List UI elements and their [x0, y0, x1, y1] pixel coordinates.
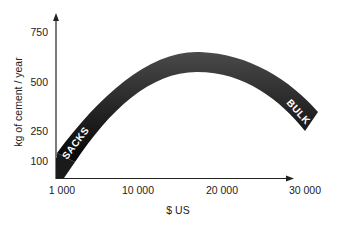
x-tick-1000: 1 000: [49, 184, 75, 196]
y-tick-750: 750: [30, 26, 48, 38]
y-tick-500: 500: [30, 76, 48, 88]
x-tick-20000: 20 000: [206, 184, 238, 196]
y-tick-250: 250: [30, 125, 48, 137]
x-tick-30000: 30 000: [289, 184, 321, 196]
y-axis-arrow-icon: [53, 13, 59, 21]
x-tick-10000: 10 000: [122, 184, 154, 196]
y-tick-100: 100: [30, 155, 48, 167]
x-axis-title: $ US: [166, 204, 189, 216]
chart: SACKS BULK 750 500 250 100 kg of cement …: [0, 0, 346, 225]
y-axis-title: kg of cement / year: [12, 57, 24, 147]
consumption-band: [57, 52, 318, 162]
x-axis-arrow-icon: [286, 176, 294, 182]
